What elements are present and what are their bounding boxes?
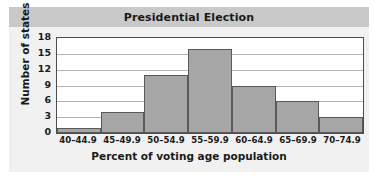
y-axis-title: Number of states [18, 0, 32, 109]
y-tick-label: 12 [36, 64, 51, 74]
x-tick-label: 50–54.9 [144, 135, 188, 145]
y-tick-label: 15 [36, 48, 51, 58]
bar-slot [276, 38, 320, 133]
y-tick-label: 3 [36, 111, 51, 121]
bar[interactable] [276, 101, 320, 133]
bar-slot [101, 38, 145, 133]
x-tick-label: 70–74.9 [320, 135, 364, 145]
bar[interactable] [101, 112, 145, 133]
plot-inner [57, 38, 363, 133]
bar[interactable] [57, 128, 101, 133]
chart-title-band: Presidential Election [9, 7, 369, 27]
bar-series [57, 38, 363, 133]
x-tick-label: 40–44.9 [56, 135, 100, 145]
bar-slot [188, 38, 232, 133]
plot-area [56, 37, 364, 134]
x-tick-label: 65–69.9 [276, 135, 320, 145]
bar[interactable] [319, 117, 363, 133]
y-tick-label: 6 [36, 96, 51, 106]
bar-slot [144, 38, 188, 133]
x-tick-label: 55–59.9 [188, 135, 232, 145]
y-tick-label: 18 [36, 32, 51, 42]
y-axis-tick-labels: 0369121518 [36, 31, 51, 137]
bar[interactable] [144, 75, 188, 133]
chart-title: Presidential Election [124, 11, 254, 24]
y-tick-label: 9 [36, 80, 51, 90]
y-tick-label: 0 [36, 127, 51, 137]
bar-slot [232, 38, 276, 133]
bar-slot [319, 38, 363, 133]
x-axis-tick-labels: 40–44.945–49.950–54.955–59.960–64.965–69… [56, 135, 364, 145]
x-axis-title: Percent of voting age population [9, 150, 369, 162]
bar-slot [57, 38, 101, 133]
bar[interactable] [188, 49, 232, 133]
x-tick-label: 60–64.9 [232, 135, 276, 145]
chart-figure: Presidential Election Number of states 0… [0, 0, 378, 180]
bar[interactable] [232, 86, 276, 134]
x-tick-label: 45–49.9 [100, 135, 144, 145]
